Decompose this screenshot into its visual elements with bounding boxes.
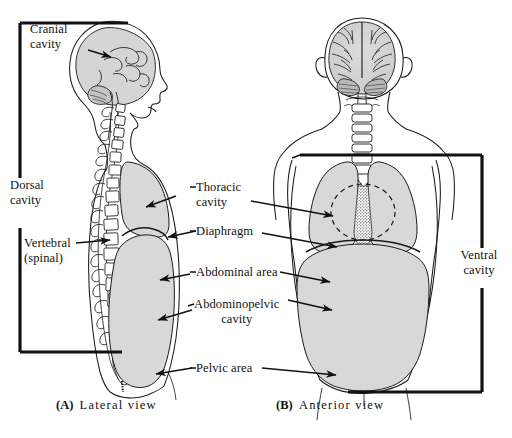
lateral-abdominopelvic-cavity (109, 235, 175, 388)
label-dorsal-cavity: Dorsal cavity (10, 178, 44, 207)
label-abdominopelvic-cavity: Abdominopelvic cavity (194, 297, 279, 326)
caption-text-b: Anterior view (299, 398, 384, 412)
label-abdominal-area: Abdominal area (196, 265, 278, 280)
label-vertebral-spinal: Vertebral (spinal) (24, 236, 71, 265)
label-ventral-cavity: Ventral cavity (451, 248, 507, 277)
caption-text-a: Lateral view (80, 398, 157, 412)
anterior-abdominopelvic-cavity (297, 244, 429, 391)
label-diaphragm: Diaphragm (196, 224, 253, 239)
body-cavities-figure (0, 0, 512, 438)
label-cranial-cavity: Cranial cavity (30, 22, 68, 51)
label-thoracic-cavity: Thoracic cavity (196, 180, 241, 209)
caption-marker-b: (B) (276, 398, 293, 412)
caption-anterior-view: (B) Anterior view (276, 398, 384, 413)
caption-marker-a: (A) (56, 398, 73, 412)
label-pelvic-area: Pelvic area (196, 361, 252, 376)
caption-lateral-view: (A) Lateral view (56, 398, 157, 413)
